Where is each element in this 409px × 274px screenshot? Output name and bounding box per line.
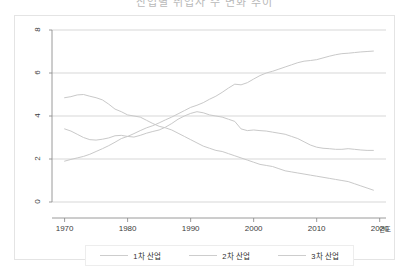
x-tick-label: 1970 [48,224,82,233]
y-tick-label: 0 [33,195,42,209]
tick-marks [49,30,380,222]
legend-item[interactable]: 3차 산업 [278,250,338,261]
legend-line-icon [100,255,128,256]
legend-label: 1차 산업 [133,250,160,261]
x-tick-label: 1990 [174,224,208,233]
legend-item[interactable]: 1차 산업 [100,250,160,261]
line-chart-plot [15,16,394,259]
y-tick-label: 4 [33,109,42,123]
legend-line-icon [189,255,217,256]
y-tick-label: 2 [33,152,42,166]
x-tick-label: 2010 [300,224,334,233]
legend-label: 3차 산업 [311,250,338,261]
x-axis-title: 연도 [370,224,400,234]
series-line [65,95,374,191]
axis-lines [52,30,386,218]
x-tick-label: 2000 [237,224,271,233]
gridlines [52,30,386,202]
legend-item[interactable]: 2차 산업 [189,250,249,261]
legend-label: 2차 산업 [222,250,249,261]
data-series-group [65,51,374,190]
chart-title-text: 산업별 취업자 수 변화 추이 [136,0,273,9]
chart-legend: 1차 산업2차 산업3차 산업 [85,245,354,266]
legend-line-icon [278,255,306,256]
chart-title-clipped: 산업별 취업자 수 변화 추이 [0,0,409,12]
x-tick-label: 1980 [111,224,145,233]
y-tick-label: 8 [33,23,42,37]
y-tick-label: 6 [33,66,42,80]
chart-figure: 02468 197019801990200020102020 연도 1차 산업2… [14,15,395,260]
